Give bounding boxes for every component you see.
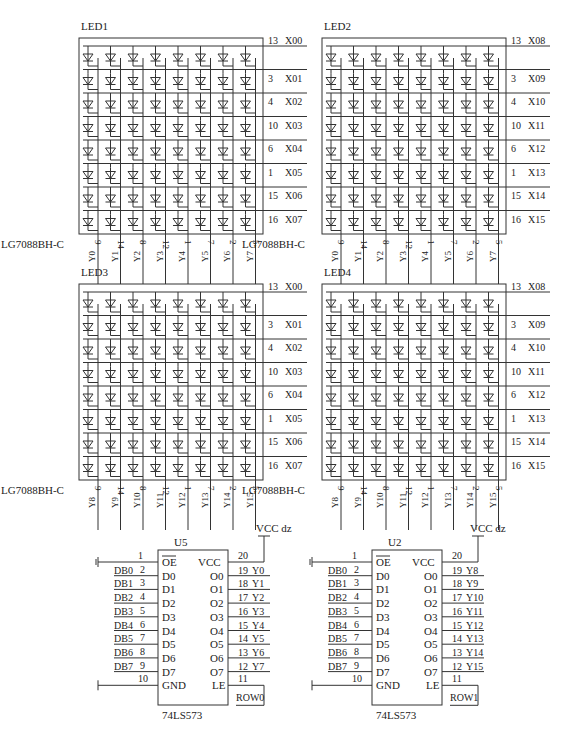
pin-number: 10 <box>352 673 362 684</box>
pin-input-label: D6 <box>376 652 390 664</box>
output-net-label: Y15 <box>466 661 483 672</box>
latch-u5: U574LS573OE1VCC20VCC dzDB02D0O019Y0DB13D… <box>96 522 292 721</box>
row-pin-number: 15 <box>268 190 278 201</box>
led-diode-icon <box>196 343 211 359</box>
pin-input-label: D1 <box>376 583 389 595</box>
column-net-label: Y14 <box>222 492 232 508</box>
led-diode-icon <box>196 74 211 90</box>
row-net-label: X02 <box>285 96 302 107</box>
data-bus-net-label: DB1 <box>114 578 133 589</box>
led-diode-icon <box>349 390 364 406</box>
row-pin-number: 13 <box>511 281 521 292</box>
led-diode-icon <box>416 461 431 477</box>
led-diode-icon <box>128 367 143 383</box>
led-diode-icon <box>416 414 431 430</box>
led-diode-icon <box>416 390 431 406</box>
led-diode-icon <box>461 390 476 406</box>
pin-input-label: D4 <box>376 625 390 637</box>
led-diode-icon <box>416 320 431 336</box>
led-diode-icon <box>461 191 476 207</box>
column-net-label: Y0 <box>87 251 97 262</box>
row-net-label: X14 <box>528 190 545 201</box>
data-bus-net-label: DB3 <box>328 606 347 617</box>
led-diode-icon <box>439 320 454 336</box>
column-net-label: Y3 <box>155 251 165 262</box>
led-diode-icon <box>349 215 364 231</box>
led-diode-icon <box>461 343 476 359</box>
matrix-ref-label: LED4 <box>324 266 351 278</box>
led-diode-icon <box>106 191 121 207</box>
pin-number: 7 <box>354 632 359 643</box>
led-diode-icon <box>128 414 143 430</box>
led-diode-icon <box>371 168 386 184</box>
row-pin-number: 13 <box>268 281 278 292</box>
power-net-label: VCC dz <box>256 522 292 534</box>
column-net-label: Y10 <box>375 492 385 508</box>
led-diode-icon <box>394 296 409 312</box>
pin-output-label: O2 <box>210 597 223 609</box>
led-diode-icon <box>128 191 143 207</box>
led-diode-icon <box>196 390 211 406</box>
led-diode-icon <box>106 50 121 66</box>
led-diode-icon <box>241 390 256 406</box>
data-bus-net-label: DB2 <box>328 592 347 603</box>
output-net-label: Y13 <box>466 633 483 644</box>
led-diode-icon <box>83 144 98 160</box>
led-diode-icon <box>151 50 166 66</box>
led-diode-icon <box>394 168 409 184</box>
column-pin-number: 7 <box>449 486 459 491</box>
led-diode-icon <box>241 367 256 383</box>
row-net-label: X01 <box>285 319 302 330</box>
row-pin-number: 13 <box>268 35 278 46</box>
led-diode-icon <box>106 390 121 406</box>
row-net-label: X07 <box>285 214 302 225</box>
led-diode-icon <box>128 74 143 90</box>
matrix-outline <box>79 284 263 480</box>
led-diode-icon <box>196 97 211 113</box>
led-diode-icon <box>83 437 98 453</box>
led-diode-icon <box>326 191 341 207</box>
led-diode-icon <box>106 97 121 113</box>
row-pin-number: 1 <box>268 413 273 424</box>
led-diode-icon <box>461 414 476 430</box>
chip-part-label: 74LS573 <box>376 709 417 721</box>
pin-number: 5 <box>140 605 145 616</box>
led-diode-icon <box>371 320 386 336</box>
led-diode-icon <box>196 414 211 430</box>
pin-number: 2 <box>140 564 145 575</box>
led-diode-icon <box>106 437 121 453</box>
pin-number: 4 <box>140 591 145 602</box>
led-diode-icon <box>349 320 364 336</box>
led-diode-icon <box>416 74 431 90</box>
led-diode-icon <box>151 390 166 406</box>
led-diode-icon <box>484 320 499 336</box>
pin-input-label: D3 <box>162 611 176 623</box>
matrix-part-label: LG7088BH-C <box>1 238 64 250</box>
led-diode-icon <box>218 414 233 430</box>
matrix-outline <box>322 284 506 480</box>
led-diode-icon <box>371 121 386 137</box>
column-net-label: Y2 <box>375 251 385 262</box>
led-diode-icon <box>326 168 341 184</box>
column-net-label: Y5 <box>443 251 453 262</box>
led-diode-icon <box>151 367 166 383</box>
led-diode-icon <box>416 215 431 231</box>
pin-number: 20 <box>238 550 248 561</box>
row-net-label: X10 <box>528 342 545 353</box>
led-diode-icon <box>106 367 121 383</box>
data-bus-net-label: DB3 <box>114 606 133 617</box>
pin-le-label: LE <box>426 679 440 691</box>
pin-number: 11 <box>238 673 248 684</box>
output-net-label: Y2 <box>252 592 264 603</box>
column-net-label: Y6 <box>222 251 232 262</box>
led-diode-icon <box>394 191 409 207</box>
led-diode-icon <box>371 461 386 477</box>
pin-input-label: D0 <box>376 570 390 582</box>
led-diode-icon <box>371 414 386 430</box>
row-net-label: X13 <box>528 413 545 424</box>
pin-number: 14 <box>238 633 248 644</box>
row-net-label: X11 <box>528 366 545 377</box>
output-net-label: Y0 <box>252 565 264 576</box>
led-diode-icon <box>106 144 121 160</box>
led-diode-icon <box>173 296 188 312</box>
